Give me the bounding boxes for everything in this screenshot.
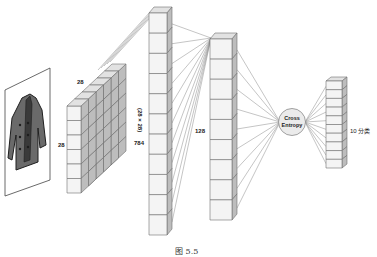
connection-line xyxy=(305,122,326,138)
coat-button-icon xyxy=(19,124,21,126)
output-layer-cell xyxy=(326,142,342,151)
connection-line xyxy=(237,89,280,122)
connection-line xyxy=(110,18,150,62)
connection-line xyxy=(172,24,211,38)
connection-line xyxy=(172,38,211,103)
hidden-layer-cell xyxy=(210,39,232,59)
diagram-canvas xyxy=(0,0,377,257)
grid-cell-front xyxy=(67,164,81,179)
hidden-layer-cell xyxy=(210,59,232,79)
neural-network-diagram: 28 28 (28 × 28) 784 128 Cross Entropy 10… xyxy=(0,0,377,257)
output-layer-cell xyxy=(326,151,342,160)
coat-button-icon xyxy=(19,136,21,138)
grid-cell-front xyxy=(67,179,81,194)
flatten-layer-cell xyxy=(149,215,167,235)
cross-entropy-line1: Cross xyxy=(277,115,307,122)
connection-line xyxy=(305,122,326,155)
grid-cell-front xyxy=(67,106,81,121)
output-layer-cell xyxy=(326,81,342,90)
coat-button-icon xyxy=(19,148,21,150)
coat-button-icon xyxy=(27,134,29,136)
grid-cell-front xyxy=(67,135,81,150)
output-layer-cell xyxy=(326,125,342,134)
flatten-formula-label: (28 × 28) xyxy=(137,108,143,132)
cross-entropy-label: Cross Entropy xyxy=(277,115,307,129)
coat-button-icon xyxy=(27,122,29,124)
connection-line xyxy=(305,121,326,122)
flatten-layer-cell xyxy=(149,134,167,154)
connection-line xyxy=(237,122,280,188)
connection-line xyxy=(98,12,150,70)
flatten-layer-cell xyxy=(149,53,167,73)
connection-line xyxy=(237,122,280,208)
flatten-layer-cell xyxy=(149,174,167,194)
hidden-layer-cell xyxy=(210,119,232,139)
hidden-layer-cell xyxy=(210,140,232,160)
flatten-layer-cell xyxy=(149,154,167,174)
hidden-layer-cell xyxy=(210,180,232,200)
hidden-size-label: 128 xyxy=(195,128,205,134)
output-layer-cell xyxy=(326,159,342,168)
flatten-layer-cell xyxy=(149,13,167,33)
output-layer-cell xyxy=(326,116,342,125)
cross-entropy-line2: Entropy xyxy=(277,122,307,129)
connection-line xyxy=(305,95,326,122)
figure-caption: 图 5.5 xyxy=(175,245,198,256)
hidden-layer-cell xyxy=(210,79,232,99)
flatten-layer-cell xyxy=(149,94,167,114)
flatten-layer-cell xyxy=(149,33,167,53)
grid-width-label: 28 xyxy=(77,79,84,85)
hidden-layer-cell xyxy=(210,200,232,220)
flatten-layer-cell xyxy=(149,114,167,134)
connection-line xyxy=(172,38,211,202)
output-size-label: 10 分类 xyxy=(350,126,370,135)
hidden-layer-cell xyxy=(210,99,232,119)
connection-line xyxy=(237,122,280,129)
output-layer-cell xyxy=(326,98,342,107)
connection-line xyxy=(237,122,280,169)
grid-height-label: 28 xyxy=(58,142,65,148)
connection-line xyxy=(237,70,280,122)
connection-line xyxy=(305,86,326,122)
flatten-layer-cell xyxy=(149,195,167,215)
connection-line xyxy=(172,38,211,83)
output-layer-cell xyxy=(326,133,342,142)
output-layer-cell xyxy=(326,107,342,116)
connection-line xyxy=(172,38,211,163)
connection-line xyxy=(104,15,150,66)
coat-button-icon xyxy=(27,146,29,148)
connection-line xyxy=(101,14,150,69)
connection-line xyxy=(172,38,211,143)
hidden-layer-cell xyxy=(210,160,232,180)
flatten-size-label: 784 xyxy=(134,140,144,146)
connection-line xyxy=(172,38,211,222)
grid-cell-front xyxy=(67,121,81,136)
connection-line xyxy=(172,38,211,44)
flatten-layer-cell xyxy=(149,74,167,94)
output-layer-cell xyxy=(326,90,342,99)
connection-line xyxy=(107,17,150,65)
grid-cell-front xyxy=(67,150,81,165)
connection-line xyxy=(305,104,326,123)
